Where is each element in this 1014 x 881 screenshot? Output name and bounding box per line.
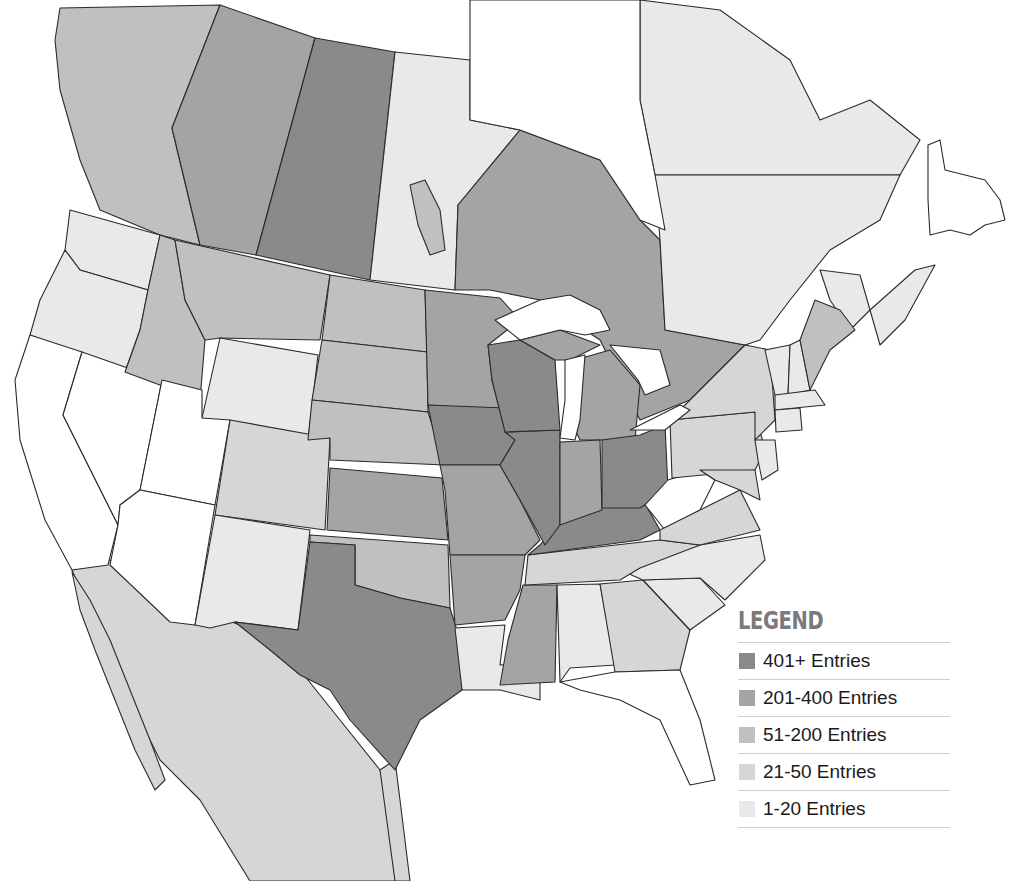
region-connecticut[interactable]	[775, 408, 802, 432]
legend-item-201-400: 201-400 Entries	[738, 679, 950, 716]
region-kansas[interactable]	[327, 468, 448, 540]
legend-swatch	[739, 727, 755, 743]
legend-item-51-200: 51-200 Entries	[738, 716, 950, 753]
region-south-dakota[interactable]	[312, 340, 428, 412]
region-arkansas[interactable]	[450, 555, 525, 625]
legend-swatch	[739, 653, 755, 669]
legend-swatch	[739, 690, 755, 706]
region-newfoundland[interactable]	[928, 140, 1005, 235]
region-new-mexico[interactable]	[195, 515, 310, 630]
legend-title: LEGEND	[738, 604, 903, 638]
region-north-dakota[interactable]	[322, 275, 427, 352]
legend-label: 21-50 Entries	[763, 761, 876, 783]
legend-swatch	[739, 764, 755, 780]
legend-label: 51-200 Entries	[763, 724, 887, 746]
legend-swatch	[739, 801, 755, 817]
region-nova-scotia[interactable]	[870, 265, 935, 345]
legend-label: 401+ Entries	[763, 650, 870, 672]
region-pennsylvania[interactable]	[670, 412, 765, 478]
region-florida[interactable]	[560, 670, 715, 785]
legend-item-21-50: 21-50 Entries	[738, 753, 950, 790]
legend-item-1-20: 1-20 Entries	[738, 790, 950, 828]
legend: LEGEND 401+ Entries 201-400 Entries 51-2…	[738, 604, 950, 828]
region-quebec-south[interactable]	[655, 175, 900, 345]
region-quebec[interactable]	[640, 0, 920, 175]
legend-item-401-plus: 401+ Entries	[738, 642, 950, 679]
region-indiana[interactable]	[560, 440, 602, 525]
legend-label: 201-400 Entries	[763, 687, 897, 709]
legend-label: 1-20 Entries	[763, 798, 865, 820]
region-new-jersey[interactable]	[755, 440, 778, 480]
